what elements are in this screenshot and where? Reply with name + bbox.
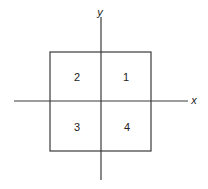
x-axis-label: x	[190, 94, 197, 106]
quadrant-diagram: x y 1 2 3 4	[0, 0, 208, 189]
y-axis-label: y	[96, 6, 104, 18]
quadrant-4-label: 4	[124, 121, 130, 133]
quadrant-3-label: 3	[74, 121, 80, 133]
quadrant-2-label: 2	[74, 71, 80, 83]
quadrant-1-label: 1	[123, 71, 129, 83]
